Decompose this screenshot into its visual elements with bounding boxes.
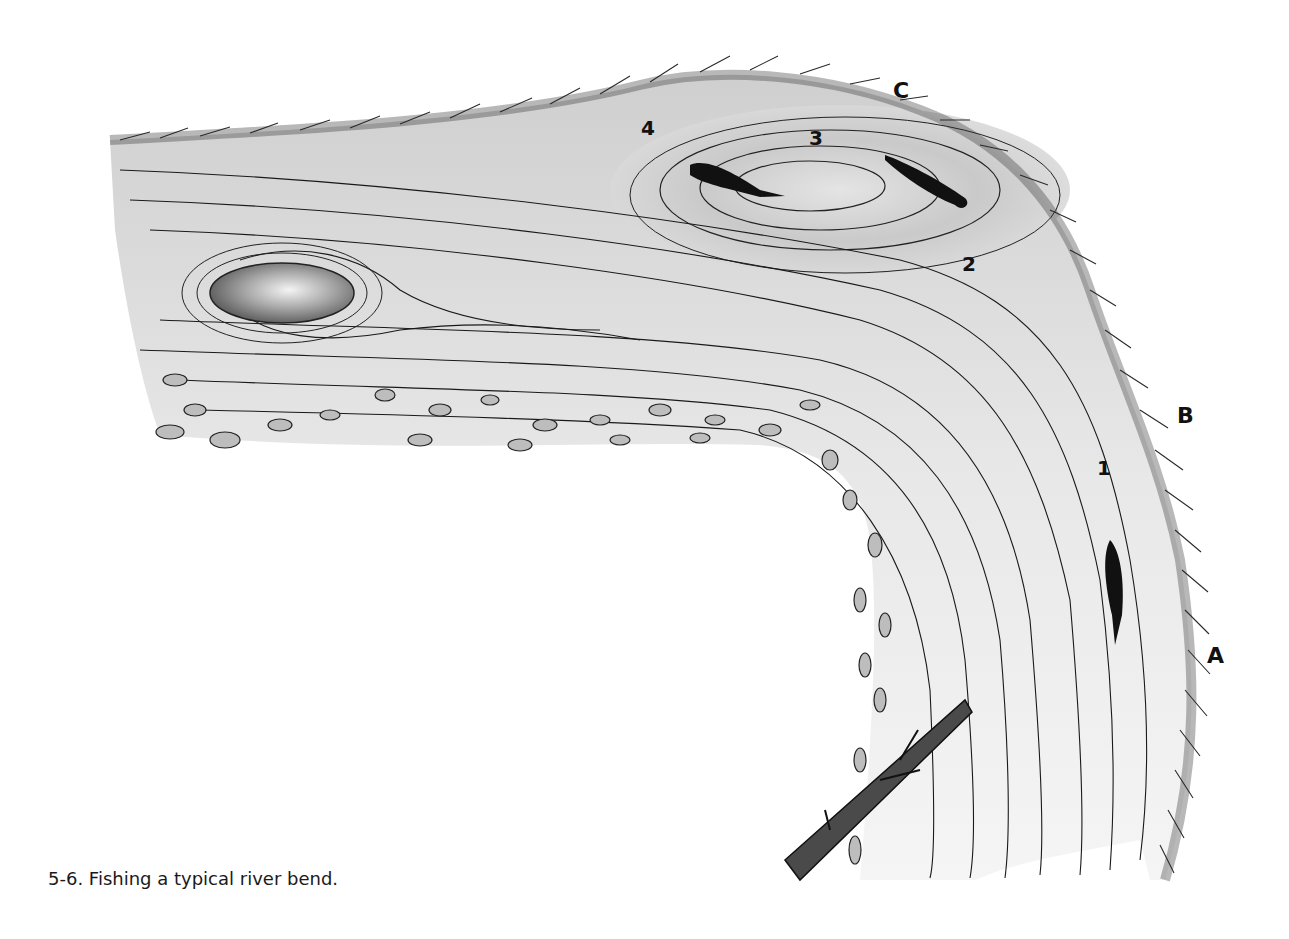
bank-label-c: C	[893, 80, 909, 102]
position-label-1: 1	[1097, 458, 1111, 478]
position-label-4: 4	[641, 118, 655, 138]
position-label-2: 2	[962, 254, 976, 274]
river-water	[110, 75, 1191, 880]
position-label-3: 3	[809, 128, 823, 148]
figure-caption: 5-6. Fishing a typical river bend.	[48, 868, 338, 889]
bank-label-b: B	[1177, 405, 1194, 427]
river-bend-illustration	[0, 0, 1289, 939]
bank-label-a: A	[1207, 645, 1224, 667]
